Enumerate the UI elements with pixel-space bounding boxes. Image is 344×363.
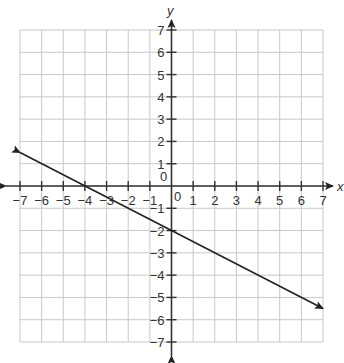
svg-text:4: 4 [157, 90, 164, 105]
coordinate-plane: −7−6−5−4−3−2−112345670 −7−6−5−4−3−2−1123… [0, 0, 344, 363]
svg-text:5: 5 [276, 193, 283, 208]
y-axis-label: y [166, 3, 175, 18]
svg-text:2: 2 [211, 193, 218, 208]
y-axis [167, 20, 177, 356]
svg-text:5: 5 [157, 68, 164, 83]
svg-text:6: 6 [157, 45, 164, 60]
svg-text:0: 0 [174, 189, 181, 204]
x-axis-label: x [336, 179, 344, 194]
svg-text:−6: −6 [150, 313, 165, 328]
svg-text:0: 0 [160, 169, 167, 184]
svg-text:2: 2 [157, 134, 164, 149]
svg-text:7: 7 [157, 23, 164, 38]
svg-text:−6: −6 [34, 193, 49, 208]
svg-text:−7: −7 [13, 193, 28, 208]
svg-text:7: 7 [319, 193, 326, 208]
svg-text:4: 4 [254, 193, 261, 208]
svg-text:−4: −4 [78, 193, 93, 208]
svg-text:−3: −3 [150, 246, 165, 261]
svg-text:3: 3 [233, 193, 240, 208]
svg-text:6: 6 [298, 193, 305, 208]
svg-text:3: 3 [157, 112, 164, 127]
svg-text:−7: −7 [150, 335, 165, 350]
svg-text:−4: −4 [150, 268, 165, 283]
svg-text:−1: −1 [150, 201, 165, 216]
svg-text:1: 1 [190, 193, 197, 208]
x-axis [6, 181, 333, 191]
svg-text:−5: −5 [150, 290, 165, 305]
svg-text:−5: −5 [56, 193, 71, 208]
